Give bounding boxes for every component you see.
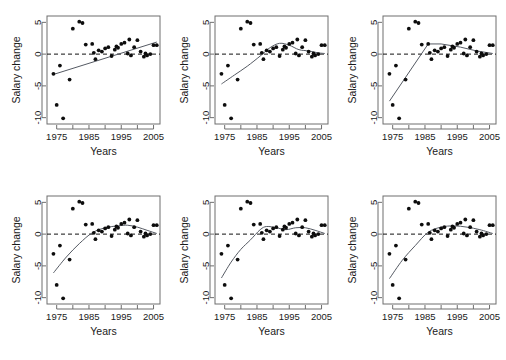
data-point <box>446 234 450 238</box>
data-point <box>136 38 140 42</box>
data-point <box>226 244 230 248</box>
data-point <box>307 230 311 234</box>
data-point <box>430 57 434 61</box>
data-point <box>397 116 401 120</box>
data-point <box>428 51 432 55</box>
data-point <box>71 27 75 31</box>
x-tick-label: 1975 <box>46 131 67 142</box>
data-point <box>294 52 298 56</box>
x-tick-label: 1975 <box>214 131 235 142</box>
data-point <box>484 52 488 56</box>
data-point <box>394 244 398 248</box>
y-tick-label: 5 <box>201 200 212 205</box>
x-tick-label: 1995 <box>447 311 468 322</box>
data-point <box>123 41 127 45</box>
x-tick-label: 1995 <box>279 131 300 142</box>
y-tick-label: -10 <box>369 111 380 125</box>
data-point <box>226 64 230 68</box>
data-point <box>488 43 492 47</box>
y-tick-label: -10 <box>369 291 380 305</box>
data-point <box>284 226 288 230</box>
y-tick-label: -10 <box>201 111 212 125</box>
data-point <box>442 45 446 49</box>
x-axis: 1975198519952005 <box>382 305 500 322</box>
y-tick-label: 5 <box>33 20 44 25</box>
x-axis-title: Years <box>426 325 452 337</box>
data-point <box>300 225 304 229</box>
y-tick-label: 0 <box>33 51 44 56</box>
data-point <box>252 223 256 227</box>
data-point <box>97 48 101 52</box>
data-point <box>491 223 495 227</box>
data-point <box>106 225 110 229</box>
data-point <box>459 221 463 225</box>
data-points <box>388 200 495 300</box>
data-point <box>455 42 459 46</box>
data-point <box>291 221 295 225</box>
data-point <box>58 64 62 68</box>
data-point <box>462 232 466 236</box>
data-point <box>55 103 59 107</box>
x-tick-label: 1975 <box>214 311 235 322</box>
data-point <box>278 234 282 238</box>
y-tick-label: 0 <box>201 231 212 236</box>
data-point <box>475 230 479 234</box>
data-point <box>404 258 408 262</box>
data-point <box>462 52 466 56</box>
data-point <box>265 48 269 52</box>
x-tick-label: 1985 <box>414 131 435 142</box>
plot-frame <box>215 196 328 304</box>
data-point <box>274 225 278 229</box>
x-tick-label: 1975 <box>382 311 403 322</box>
data-point <box>155 43 159 47</box>
data-point <box>468 225 472 229</box>
x-tick-label: 1995 <box>111 311 132 322</box>
x-tick-label: 2005 <box>311 131 332 142</box>
data-point <box>294 232 298 236</box>
data-point <box>268 50 272 54</box>
data-point <box>258 42 262 46</box>
data-point <box>316 52 320 56</box>
data-point <box>148 52 152 56</box>
plot-frame <box>215 16 328 124</box>
data-point <box>484 232 488 236</box>
data-point <box>271 227 275 231</box>
y-axis-title: Salary change <box>178 216 190 283</box>
data-point <box>465 233 469 237</box>
data-point <box>391 103 395 107</box>
data-points <box>388 20 495 120</box>
data-point <box>116 46 120 50</box>
data-point <box>287 222 291 226</box>
data-point <box>452 226 456 230</box>
data-point <box>71 207 75 211</box>
data-point <box>475 50 479 54</box>
data-point <box>81 201 85 205</box>
data-point <box>132 225 136 229</box>
plot-frame <box>383 196 496 304</box>
x-axis: 1975198519952005 <box>214 125 332 142</box>
data-point <box>155 223 159 227</box>
data-point <box>110 234 114 238</box>
x-tick-label: 2005 <box>143 311 164 322</box>
x-tick-label: 1995 <box>111 131 132 142</box>
data-point <box>407 27 411 31</box>
data-point <box>468 45 472 49</box>
plot-frame <box>47 196 160 304</box>
data-point <box>455 222 459 226</box>
data-point <box>81 21 85 25</box>
y-tick-label: -5 <box>201 262 212 270</box>
data-point <box>148 232 152 236</box>
data-point <box>446 54 450 58</box>
x-tick-label: 2005 <box>311 311 332 322</box>
y-tick-label: 0 <box>33 231 44 236</box>
data-point <box>316 232 320 236</box>
data-point <box>92 231 96 235</box>
data-point <box>420 43 424 47</box>
data-point <box>94 237 98 241</box>
data-point <box>488 223 492 227</box>
data-point <box>94 57 98 61</box>
x-tick-label: 2005 <box>479 311 500 322</box>
data-point <box>229 116 233 120</box>
y-tick-label: -5 <box>33 262 44 270</box>
y-axis: 50-5-10 <box>33 200 47 305</box>
